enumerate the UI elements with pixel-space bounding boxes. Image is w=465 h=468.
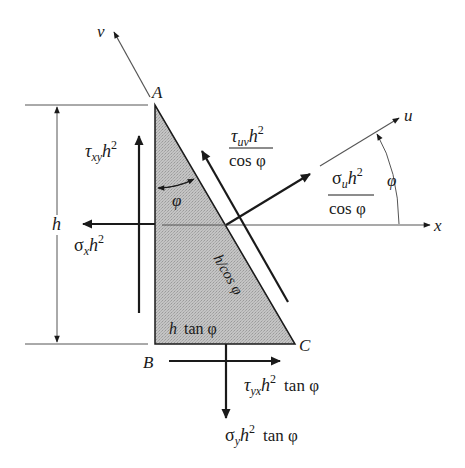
vertex-b-label: B <box>143 353 154 372</box>
sigma-u-arrow <box>226 174 310 225</box>
sigma-u-denominator: cos φ <box>329 199 366 218</box>
tau-uv-numerator: τuvh2 <box>231 123 264 149</box>
base-label: htan φ <box>169 320 217 338</box>
outer-phi-label: φ <box>387 171 396 190</box>
sigma-x-label: σxh2 <box>74 232 104 258</box>
height-label: h <box>52 214 61 234</box>
tau-uv-denominator: cos φ <box>229 151 266 170</box>
u-axis-label: u <box>404 106 413 125</box>
tau-yx-label: τyxh2tan φ <box>244 372 319 398</box>
vertex-a-label: A <box>151 83 163 102</box>
sigma-u-numerator: σuh2 <box>332 165 363 191</box>
x-axis-label: x <box>433 216 442 235</box>
v-axis-label: v <box>97 22 105 41</box>
u-axis <box>320 118 399 166</box>
vertex-c-label: C <box>299 336 311 355</box>
diagram-canvas: A B C v u x h h/cos φ htan φ φ φ τxyh2 σ… <box>0 0 465 468</box>
inner-phi-label: φ <box>172 191 181 210</box>
v-axis <box>114 32 150 97</box>
stress-diagram: A B C v u x h h/cos φ htan φ φ φ τxyh2 σ… <box>0 0 465 468</box>
tau-xy-label: τxyh2 <box>85 138 117 164</box>
sigma-y-label: σyh2tan φ <box>225 422 298 448</box>
